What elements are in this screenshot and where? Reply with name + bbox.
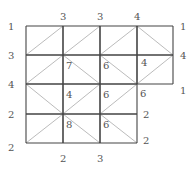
vertex-clue: 2 [143, 135, 149, 146]
cell-diagonal [63, 26, 100, 55]
vertex-clue: 1 [180, 21, 186, 32]
puzzle-diagram: 13341344122222376446686 [0, 0, 196, 170]
cell-diagonal [100, 26, 137, 55]
cell-diagonal [26, 114, 63, 143]
vertex-clue: 1 [8, 21, 14, 32]
cell-clue: 7 [66, 60, 72, 71]
vertex-clue: 2 [143, 109, 149, 120]
cell-clue: 6 [103, 119, 109, 130]
cell-clue: 8 [66, 119, 72, 130]
vertex-clue: 2 [8, 109, 14, 120]
vertex-clue: 4 [8, 79, 14, 90]
vertex-clue: 4 [134, 11, 140, 22]
cell-diagonal [26, 84, 63, 114]
cell-clue: 4 [66, 89, 72, 100]
vertex-clue: 1 [180, 85, 186, 96]
vertex-clue: 3 [60, 11, 66, 22]
vertex-clue: 2 [8, 142, 14, 153]
cell-diagonal [137, 26, 173, 55]
vertex-clue: 4 [180, 50, 186, 61]
cell-clue: 6 [103, 89, 109, 100]
vertex-clue: 3 [97, 11, 103, 22]
vertex-clue: 2 [60, 153, 66, 164]
cell-clue: 6 [140, 88, 146, 99]
cell-clue: 4 [141, 57, 147, 68]
vertex-clue: 3 [8, 50, 14, 61]
cell-diagonal [26, 55, 63, 84]
cell-diagonal [26, 26, 63, 55]
vertex-clue: 3 [97, 153, 103, 164]
cell-clue: 6 [103, 60, 109, 71]
